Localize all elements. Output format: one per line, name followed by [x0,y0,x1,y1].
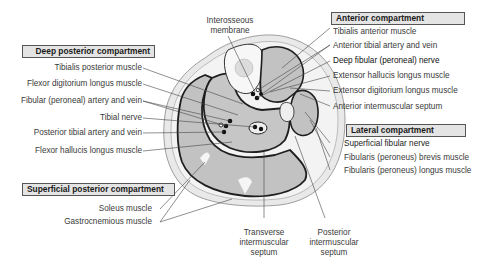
label-tibialis-anterior: Tibialis anterior muscle [333,27,416,37]
label-anterior-septum: Anterior intermuscular septum [333,102,442,112]
label-flexor-digitorum: Flexor digitorium longus muscle [27,79,142,89]
label-extensor-digitorum: Extensor digitorium longus muscle [333,86,458,96]
label-line: Posterior [298,228,370,238]
label-deep-fibular-nerve: Deep fibular (peroneal) nerve [333,56,440,66]
label-posterior-septum: Posterior intermuscular septum [298,228,370,258]
fibula-bone [280,102,294,121]
tibia-marrow [235,59,253,77]
label-fibular-artery: Fibular (peroneal) artery and vein [21,96,142,106]
label-tibial-nerve: Tibial nerve [100,113,142,123]
label-extensor-hallucis: Extensor hallucis longus muscle [333,71,450,81]
label-interosseous-membrane: Interosseous membrane [200,16,260,36]
label-line: septum [228,248,300,258]
label-line: septum [298,248,370,258]
box-lateral-compartment: Lateral compartment [346,124,466,137]
label-line: Interosseous [200,16,260,26]
label-tibialis-posterior: Tibialis posterior muscle [54,63,142,73]
box-anterior-compartment: Anterior compartment [331,12,465,25]
posterior-tibial-bundle [249,122,267,134]
label-fibularis-longus: Fibularis (peroneus) longus muscle [344,166,471,176]
label-line: intermuscular [298,238,370,248]
label-line: intermuscular [228,238,300,248]
box-superficial-posterior-compartment: Superficial posterior compartment [22,183,175,196]
label-gastrocnemius: Gastrocnemious muscle [64,217,152,227]
label-flexor-hallucis: Flexor hallucis longus muscle [35,146,142,156]
label-transverse-septum: Transverse intermuscular septum [228,228,300,258]
label-posterior-tibial: Posterior tibial artery and vein [34,128,142,138]
box-deep-posterior-compartment: Deep posterior compartment [22,45,155,58]
label-line: Transverse [228,228,300,238]
label-line: membrane [200,26,260,36]
label-fibularis-brevis: Fibularis (peroneus) brevis muscle [344,153,469,163]
label-superficial-fibular-nerve: Superficial fibular nerve [344,139,430,149]
label-anterior-tibial: Anterior tibial artery and vein [333,41,437,51]
label-soleus: Soleus muscle [99,204,152,214]
